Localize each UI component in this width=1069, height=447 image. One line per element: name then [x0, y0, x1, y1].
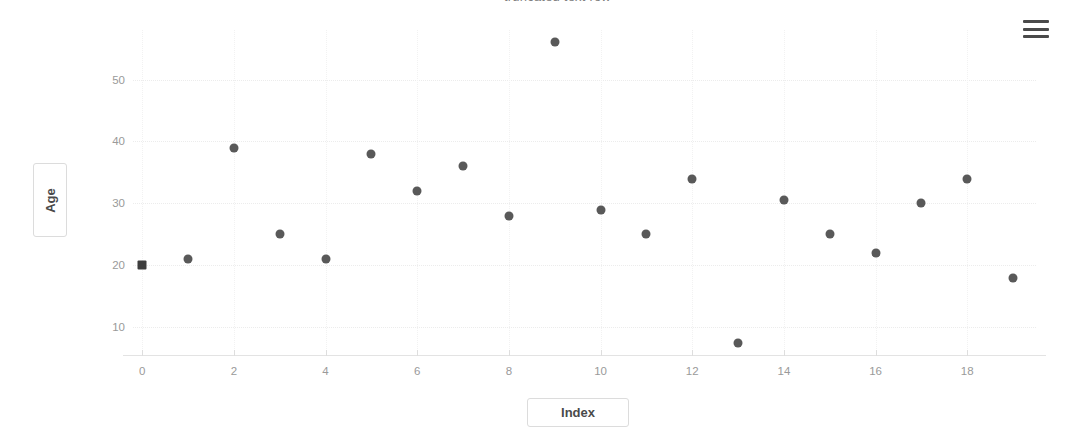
- x-axis-tick-mark: [509, 350, 510, 356]
- x-axis-tick-mark: [142, 350, 143, 356]
- gridline-vertical: [601, 30, 602, 355]
- x-axis-tick-label: 16: [869, 365, 882, 377]
- scatter-chart: 1020304050 024681012141618 Age Index: [0, 0, 1069, 447]
- data-point[interactable]: [138, 261, 147, 270]
- gridline-vertical: [234, 30, 235, 355]
- gridline-vertical: [326, 30, 327, 355]
- x-axis-tick-mark: [784, 350, 785, 356]
- data-point[interactable]: [825, 230, 834, 239]
- y-axis-tick-label: 50: [95, 74, 125, 86]
- data-point[interactable]: [642, 230, 651, 239]
- x-axis-tick-mark: [326, 350, 327, 356]
- data-point[interactable]: [734, 338, 743, 347]
- x-axis-tick-mark: [967, 350, 968, 356]
- y-axis-tick-label: 10: [95, 321, 125, 333]
- data-point[interactable]: [779, 196, 788, 205]
- y-axis-tick-label: 30: [95, 197, 125, 209]
- x-axis-tick-mark: [417, 350, 418, 356]
- x-axis-tick-label: 6: [414, 365, 420, 377]
- gridline-vertical: [876, 30, 877, 355]
- gridline-vertical: [142, 30, 143, 355]
- data-point[interactable]: [1009, 273, 1018, 282]
- x-axis-tick-label: 14: [777, 365, 790, 377]
- y-axis-title[interactable]: Age: [33, 163, 67, 237]
- data-point[interactable]: [321, 255, 330, 264]
- x-axis-tick-mark: [876, 350, 877, 356]
- chart-page: — truncated text row — 1020304050 024681…: [0, 0, 1069, 447]
- data-point[interactable]: [367, 149, 376, 158]
- x-axis-tick-mark: [234, 350, 235, 356]
- data-point[interactable]: [459, 162, 468, 171]
- data-point[interactable]: [413, 186, 422, 195]
- x-axis-tick-label: 2: [231, 365, 237, 377]
- y-axis-tick-label: 40: [95, 135, 125, 147]
- x-axis-tick-mark: [601, 350, 602, 356]
- x-axis-title[interactable]: Index: [527, 398, 629, 427]
- y-axis-title-label: Age: [43, 188, 58, 213]
- data-point[interactable]: [550, 38, 559, 47]
- x-axis-tick-label: 8: [506, 365, 512, 377]
- gridline-vertical: [784, 30, 785, 355]
- gridline-vertical: [967, 30, 968, 355]
- x-axis-tick-label: 18: [961, 365, 974, 377]
- data-point[interactable]: [596, 205, 605, 214]
- x-axis-tick-mark: [692, 350, 693, 356]
- gridline-vertical: [509, 30, 510, 355]
- data-point[interactable]: [504, 211, 513, 220]
- data-point[interactable]: [688, 174, 697, 183]
- y-axis-tick-label: 20: [95, 259, 125, 271]
- gridline-horizontal: [133, 265, 1036, 266]
- data-point[interactable]: [963, 174, 972, 183]
- gridline-vertical: [692, 30, 693, 355]
- gridline-horizontal: [133, 327, 1036, 328]
- plot-area[interactable]: [133, 30, 1036, 355]
- x-axis-tick-label: 12: [686, 365, 699, 377]
- gridline-horizontal: [133, 80, 1036, 81]
- x-axis-tick-label: 4: [322, 365, 328, 377]
- data-point[interactable]: [184, 255, 193, 264]
- x-axis-title-label: Index: [561, 405, 595, 420]
- x-axis-tick-label: 10: [594, 365, 607, 377]
- data-point[interactable]: [871, 248, 880, 257]
- gridline-horizontal: [133, 141, 1036, 142]
- gridline-horizontal: [133, 203, 1036, 204]
- data-point[interactable]: [275, 230, 284, 239]
- data-point[interactable]: [917, 199, 926, 208]
- data-point[interactable]: [229, 143, 238, 152]
- x-axis-line: [123, 355, 1046, 356]
- x-axis-tick-label: 0: [139, 365, 145, 377]
